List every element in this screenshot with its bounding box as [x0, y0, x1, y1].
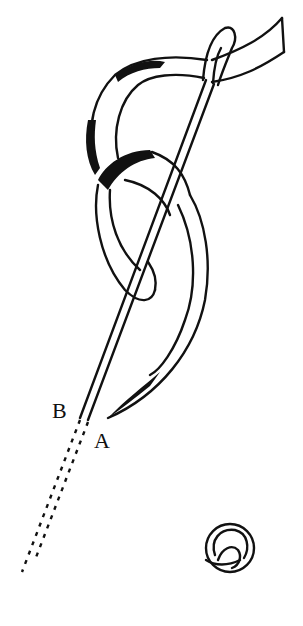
ribbon-shading: [86, 61, 165, 418]
point-a-label: A: [94, 430, 110, 452]
point-b-label: B: [52, 400, 67, 422]
stitch-illustration: [0, 0, 303, 626]
ribbon-lower: [108, 195, 208, 418]
needle-path-dashed: [22, 420, 88, 572]
needle: [80, 80, 214, 420]
finished-rose-stitch-icon: [206, 524, 254, 572]
